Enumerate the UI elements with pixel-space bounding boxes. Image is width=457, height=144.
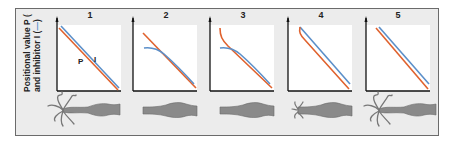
y-axis-arrow-icon bbox=[287, 16, 290, 22]
hydra-regenerating-icon bbox=[292, 102, 352, 118]
hydra-headless-icon bbox=[220, 103, 274, 118]
curve-label-I: I bbox=[94, 55, 96, 64]
curve-label-P: P bbox=[78, 57, 84, 66]
panel-5 bbox=[365, 16, 431, 91]
y-axis-arrow-icon bbox=[56, 16, 59, 22]
panel-1: I P bbox=[56, 16, 122, 91]
y-axis-arrow-icon bbox=[209, 16, 212, 22]
y-axis-arrow-icon bbox=[365, 16, 368, 22]
hydra-headless-icon bbox=[143, 103, 197, 118]
plot-area bbox=[133, 25, 197, 91]
panel-2 bbox=[132, 16, 198, 91]
hydra-full-icon bbox=[364, 92, 436, 126]
panel-3 bbox=[209, 16, 275, 91]
panel-4 bbox=[287, 16, 353, 91]
y-axis-arrow-icon bbox=[132, 16, 135, 22]
diagram-canvas: I P bbox=[0, 0, 457, 144]
hydra-full-icon bbox=[48, 92, 120, 126]
